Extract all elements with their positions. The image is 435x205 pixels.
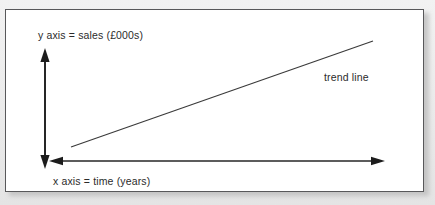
y-axis-arrow: [40, 48, 49, 169]
y-axis-label: y axis = sales (£000s): [38, 29, 143, 41]
trend-line-label: trend line: [324, 71, 369, 83]
trend-line: [71, 41, 373, 147]
x-axis-label: x axis = time (years): [53, 175, 150, 187]
x-axis-arrow: [49, 157, 385, 166]
figure-frame: y axis = sales (£000s) x axis = time (ye…: [5, 9, 424, 192]
figure-stage: y axis = sales (£000s) x axis = time (ye…: [0, 0, 435, 205]
